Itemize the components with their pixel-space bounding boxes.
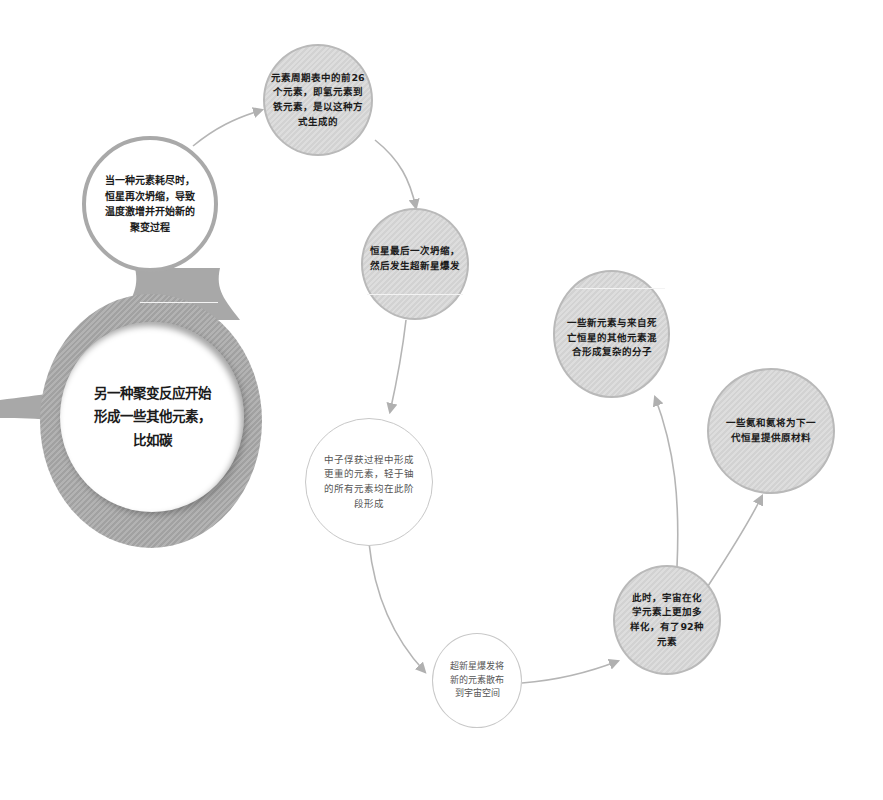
- node-label: 超新星爆发将 新的元素散布 到宇宙空间: [450, 660, 504, 702]
- highlight-line: [575, 288, 665, 289]
- node-label: 元素周期表中的前26 个元素，即氢元素到 铁元素，是以这种方 式生成的: [271, 71, 364, 130]
- node-label: 另一种聚变反应开始 形成一些其他元素， 比如碳: [94, 382, 211, 453]
- node-label: 一些氦和氦将为下一 代恒星提供原材料: [726, 416, 816, 445]
- node-92-elements: 此时，宇宙在化 学元素上更加多 样化，有了92种 元素: [613, 565, 721, 675]
- node-complex-molecules: 一些新元素与来自死 亡恒星的其他元素混 合形成复杂的分子: [553, 270, 670, 398]
- arrow-n6-n7: [655, 397, 678, 567]
- highlight-line: [140, 302, 218, 303]
- arrow-n4-n5: [369, 543, 425, 672]
- node-label: 一些新元素与来自死 亡恒星的其他元素混 合形成复杂的分子: [567, 316, 657, 360]
- arrow-n6-n8: [706, 496, 762, 589]
- arrow-n5-n6: [522, 661, 618, 683]
- arrow-n1-n2: [193, 110, 262, 146]
- node-label: 中子俘获过程中形成 更重的元素，轻于铀 的所有元素均在此阶 段形成: [324, 453, 414, 512]
- arrow-n3-n4: [390, 320, 406, 412]
- node-fusion-restart: 当一种元素耗尽时， 恒星再次坍缩，导致 温度激增并开始新的 聚变过程: [82, 136, 218, 272]
- node-neutron-capture: 中子俘获过程中形成 更重的元素，轻于铀 的所有元素均在此阶 段形成: [305, 418, 433, 546]
- highlight-line: [367, 294, 463, 295]
- node-other-fusion-ring: 另一种聚变反应开始 形成一些其他元素， 比如碳: [40, 294, 262, 548]
- node-supernova-collapse: 恒星最后一次坍缩， 然后发生超新星爆发: [361, 208, 469, 320]
- arrow-n2-n3: [375, 140, 416, 208]
- node-other-fusion: 另一种聚变反应开始 形成一些其他元素， 比如碳: [60, 322, 244, 512]
- diagram-canvas: 当一种元素耗尽时， 恒星再次坍缩，导致 温度激增并开始新的 聚变过程 另一种聚变…: [0, 0, 883, 800]
- node-label: 此时，宇宙在化 学元素上更加多 样化，有了92种 元素: [630, 591, 703, 650]
- node-supernova-scatter: 超新星爆发将 新的元素散布 到宇宙空间: [432, 633, 522, 728]
- node-label: 恒星最后一次坍缩， 然后发生超新星爆发: [370, 244, 460, 273]
- node-label: 当一种元素耗尽时， 恒星再次坍缩，导致 温度激增并开始新的 聚变过程: [105, 173, 195, 235]
- node-next-generation-stars: 一些氦和氦将为下一 代恒星提供原材料: [707, 368, 835, 494]
- node-first-26-elements: 元素周期表中的前26 个元素，即氢元素到 铁元素，是以这种方 式生成的: [263, 44, 373, 156]
